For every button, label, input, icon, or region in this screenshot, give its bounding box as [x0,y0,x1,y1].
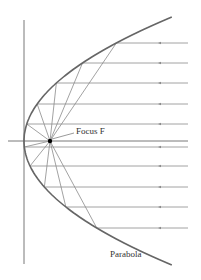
ray-arrow-icon [158,103,161,106]
ray-arrow-icon [158,227,161,230]
parabola-diagram [0,0,201,280]
ray-arrow-icon [158,123,161,126]
reflected-ray [37,104,50,141]
reflected-ray [27,124,50,141]
focus-label: Focus F [76,126,105,136]
ray-arrow-icon [158,186,161,189]
focus-leader-line [52,133,74,139]
reflected-ray [50,141,66,207]
parabola-label: Parabola [110,249,142,259]
ray-arrow-icon [158,62,161,65]
ray-arrow-icon [158,165,161,168]
focus-point [48,139,52,143]
ray-arrow-icon [158,82,161,85]
reflected-ray [50,83,56,141]
ray-arrow-icon [158,206,161,209]
ray-arrow-icon [158,146,161,149]
reflected-ray [44,141,50,187]
reflected-rays [24,42,188,230]
reflected-ray [50,141,97,228]
ray-arrow-icon [158,42,161,45]
